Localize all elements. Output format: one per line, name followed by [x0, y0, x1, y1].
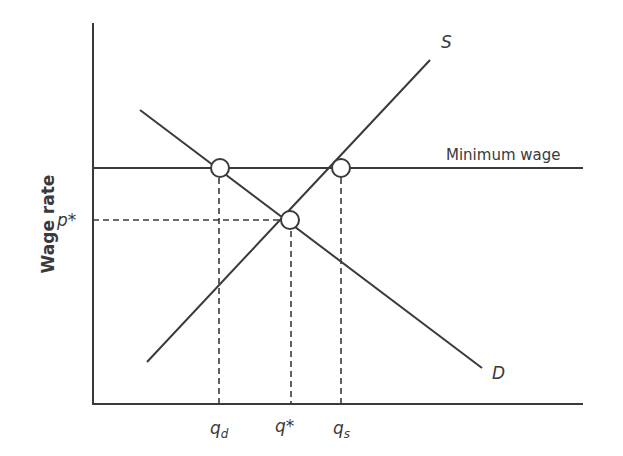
qd-marker	[211, 159, 229, 177]
qs-label-base: q	[333, 418, 344, 438]
qd-label-sub: d	[221, 427, 229, 441]
supply-label: S	[441, 32, 452, 52]
qs-label-sub: s	[344, 427, 350, 441]
p-star-label: p*	[57, 210, 76, 230]
y-axis-label: Wage rate	[38, 174, 58, 274]
qs-marker	[332, 159, 350, 177]
qd-label: qd	[210, 418, 228, 441]
qstar-label: q*	[275, 416, 294, 436]
qd-label-base: q	[210, 418, 221, 438]
demand-curve	[140, 110, 482, 368]
diagram-canvas	[0, 0, 623, 456]
equilibrium-marker	[281, 211, 299, 229]
qs-label: qs	[333, 418, 350, 441]
demand-label: D	[492, 363, 505, 383]
minimum-wage-label: Minimum wage	[446, 146, 561, 164]
